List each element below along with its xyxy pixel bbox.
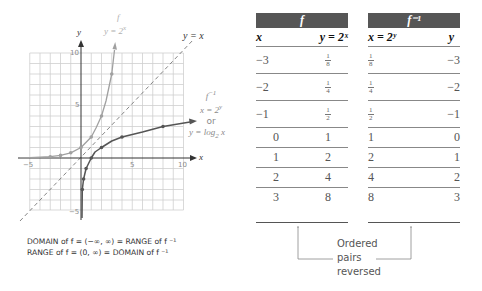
bracket-connector [0, 0, 482, 291]
ordered-pairs-reversed-note: Ordered pairs reversed [337, 237, 381, 279]
